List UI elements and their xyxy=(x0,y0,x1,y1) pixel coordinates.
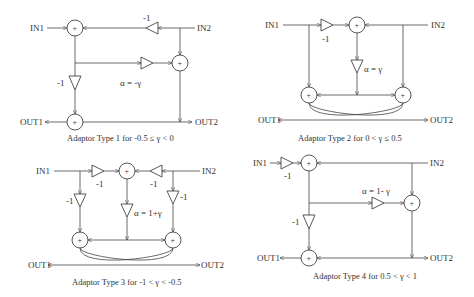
gain-triangle-icon xyxy=(321,19,333,31)
gain-label: -1 xyxy=(150,179,158,189)
caption: Adaptor Type 4 for 0.5 < γ < 1 xyxy=(313,271,417,281)
gain-label: -1 xyxy=(143,13,151,23)
gain-label: -1 xyxy=(292,217,300,227)
plus-sign: + xyxy=(73,118,78,127)
caption: Adaptor Type 1 for -0.5 ≤ γ < 0 xyxy=(67,133,174,143)
label-in2: IN2 xyxy=(197,23,211,33)
label-in2: IN2 xyxy=(202,166,216,176)
alpha-label: α = -γ xyxy=(120,78,141,88)
label-out1: OUT1 xyxy=(257,253,280,263)
label-out2: OUT2 xyxy=(195,117,218,127)
gain-label: -1 xyxy=(322,34,330,44)
diagram-type1: IN1 IN2 -1 + + α = -γ -1 + OUT1 OUT2 xyxy=(20,13,218,143)
alpha-label: α = γ xyxy=(364,64,382,74)
plus-sign: + xyxy=(307,159,312,168)
gain-triangle-icon xyxy=(146,22,158,34)
plus-sign: + xyxy=(307,91,312,100)
plus-sign: + xyxy=(78,236,83,245)
gain-triangle-icon xyxy=(92,165,104,177)
caption: Adaptor Type 2 for 0 < γ ≤ 0.5 xyxy=(298,133,402,143)
diagram-type3: IN1 IN2 -1 + -1 -1 -1 α = 1+γ + + xyxy=(28,163,224,287)
gain-triangle-icon xyxy=(69,76,81,90)
plus-sign: + xyxy=(73,24,78,33)
gain-triangle-icon xyxy=(150,165,162,177)
label-out1: OUT1 xyxy=(28,260,51,270)
label-out2: OUT2 xyxy=(430,115,453,125)
gain-label: -1 xyxy=(284,171,292,181)
label-in1: IN1 xyxy=(265,20,279,30)
diagram-type2: IN1 IN2 -1 + α = γ + + OUT1 OUT2 Adaptor… xyxy=(258,17,453,143)
gain-triangle-icon xyxy=(167,191,179,204)
label-in2: IN2 xyxy=(431,20,445,30)
gain-label: -1 xyxy=(66,196,74,206)
alpha-label: α = 1- γ xyxy=(362,186,390,196)
label-in1: IN1 xyxy=(30,23,44,33)
label-in1: IN1 xyxy=(36,166,50,176)
gain-label: -1 xyxy=(57,78,65,88)
gain-label: -1 xyxy=(180,192,188,202)
plus-sign: + xyxy=(125,167,130,176)
plus-sign: + xyxy=(401,91,406,100)
gain-label: -1 xyxy=(96,179,104,189)
label-out1: OUT1 xyxy=(20,117,43,127)
plus-sign: + xyxy=(410,199,415,208)
alpha-triangle-icon xyxy=(372,197,384,209)
label-out2: OUT2 xyxy=(430,253,453,263)
plus-sign: + xyxy=(307,254,312,263)
alpha-label: α = 1+γ xyxy=(134,208,162,218)
label-in1: IN1 xyxy=(253,158,267,168)
gain-triangle-icon xyxy=(281,157,293,169)
alpha-triangle-icon xyxy=(141,57,153,69)
adaptor-diagrams: IN1 IN2 -1 + + α = -γ -1 + OUT1 OUT2 xyxy=(0,0,474,297)
gain-triangle-icon xyxy=(303,215,315,229)
alpha-triangle-icon xyxy=(351,60,363,73)
label-out2: OUT2 xyxy=(201,260,224,270)
alpha-triangle-icon xyxy=(121,204,133,217)
gain-triangle-icon xyxy=(74,194,86,207)
plus-sign: + xyxy=(171,236,176,245)
label-in2: IN2 xyxy=(430,158,444,168)
plus-sign: + xyxy=(178,59,183,68)
label-out1: OUT1 xyxy=(258,115,281,125)
plus-sign: + xyxy=(355,21,360,30)
caption: Adaptor Type 3 for -1 < γ < -0.5 xyxy=(72,277,182,287)
diagram-type4: IN1 IN2 -1 + + α = 1- γ -1 + OUT1 OUT2 A… xyxy=(253,155,453,281)
